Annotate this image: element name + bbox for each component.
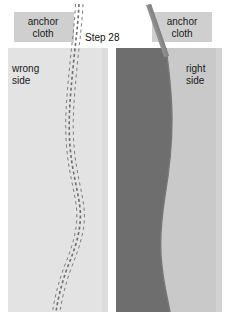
wrong-side-label: wrong side	[12, 63, 39, 86]
right-side-label: right side	[186, 63, 205, 86]
right-panel-edge-shade	[216, 48, 222, 312]
anchor-cloth-label-left: anchor cloth	[19, 16, 67, 39]
left-panel-group	[8, 4, 108, 312]
wrong-side-fabric	[8, 48, 108, 312]
right-panel-group	[116, 4, 222, 312]
anchor-cloth-label-right: anchor cloth	[158, 16, 206, 39]
step-28-sewing-diagram: anchor cloth Step 28 anchor cloth wrong …	[0, 0, 229, 312]
left-panel-edge-shade	[102, 48, 108, 312]
diagram-canvas	[0, 0, 229, 312]
step-label: Step 28	[85, 32, 119, 44]
